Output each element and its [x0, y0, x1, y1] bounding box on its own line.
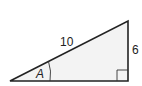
hypotenuse-label: 10: [60, 35, 74, 49]
triangle-diagram: 10 6 A: [0, 0, 142, 86]
triangle: [10, 21, 128, 81]
opposite-side-label: 6: [132, 43, 139, 57]
angle-label: A: [35, 67, 44, 81]
